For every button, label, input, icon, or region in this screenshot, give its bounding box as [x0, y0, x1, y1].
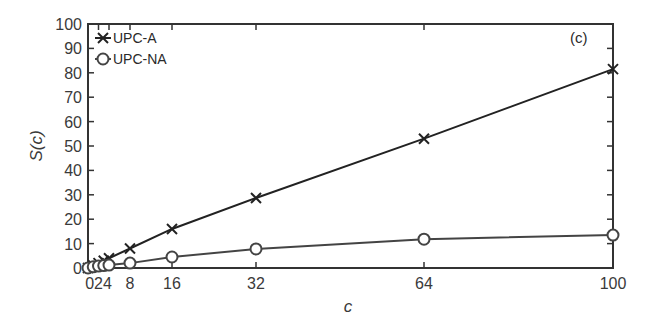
y-tick-label: 100 [55, 16, 82, 33]
y-tick-label: 0 [73, 260, 82, 277]
series-upc-a [83, 64, 618, 273]
legend-label: UPC-NA [113, 51, 167, 67]
x-axis-label: c [344, 297, 353, 316]
x-tick-label: 100 [600, 275, 627, 292]
legend: UPC-AUPC-NA [95, 30, 167, 67]
y-tick-label: 30 [64, 187, 82, 204]
y-tick-label: 40 [64, 162, 82, 179]
x-marker-icon [95, 33, 111, 43]
panel-label: (c) [570, 29, 588, 46]
x-tick-label: 64 [415, 275, 433, 292]
y-tick-label: 90 [64, 40, 82, 57]
x-tick-label: 32 [247, 275, 265, 292]
x-tick-label: 16 [163, 275, 181, 292]
y-tick-label: 50 [64, 138, 82, 155]
y-axis-label: S(c) [27, 130, 46, 161]
x-tick-label: 024 [85, 275, 112, 292]
circle-marker-icon [95, 54, 111, 65]
legend-item: UPC-A [95, 30, 157, 46]
y-tick-label: 70 [64, 89, 82, 106]
y-tick-label: 10 [64, 236, 82, 253]
line-chart: 0102030405060708090100 0248163264100 UPC… [0, 0, 653, 333]
legend-label: UPC-A [113, 30, 157, 46]
x-tick-label: 8 [126, 275, 135, 292]
y-tick-label: 20 [64, 211, 82, 228]
series-upc-na [83, 230, 619, 274]
series-layer [83, 64, 619, 273]
legend-item: UPC-NA [95, 51, 167, 67]
y-tick-label: 80 [64, 65, 82, 82]
y-tick-label: 60 [64, 114, 82, 131]
